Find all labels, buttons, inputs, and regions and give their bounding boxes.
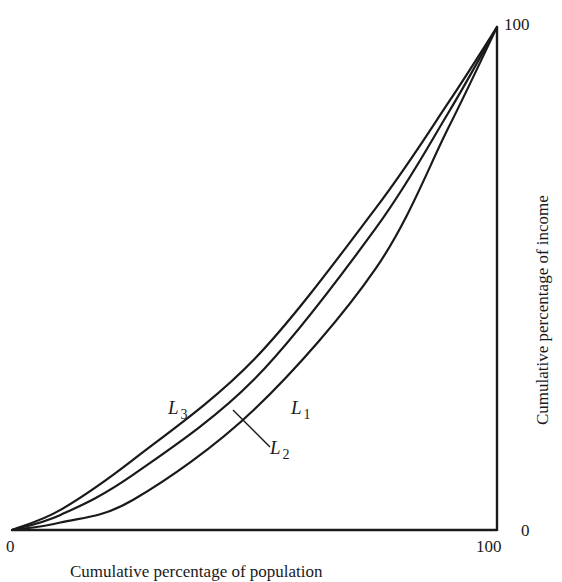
x-tick-100: 100 [476,538,502,555]
curve-label-l2-main: L [270,437,281,458]
x-axis-title: Cumulative percentage of population [70,562,323,582]
lorenz-curve-l2 [12,27,497,530]
curve-label-l1: L1 [291,398,311,424]
curve-label-l3-main: L [168,397,179,418]
lorenz-curve-l3 [12,27,497,530]
curve-label-l3-sub: 3 [181,407,188,422]
lorenz-curve-l1 [12,27,497,530]
l2-leader-line [233,410,270,447]
y-tick-0: 0 [521,522,530,539]
curve-label-l1-main: L [291,397,302,418]
curve-label-l2-sub: 2 [283,447,290,462]
curves-group [12,27,497,530]
curve-label-l1-sub: 1 [304,407,311,422]
curve-label-l2: L2 [270,438,290,464]
y-axis-title: Cumulative percentage of income [533,195,553,425]
curve-label-l3: L3 [168,398,188,424]
x-tick-0: 0 [6,538,15,555]
y-tick-100: 100 [504,16,530,33]
